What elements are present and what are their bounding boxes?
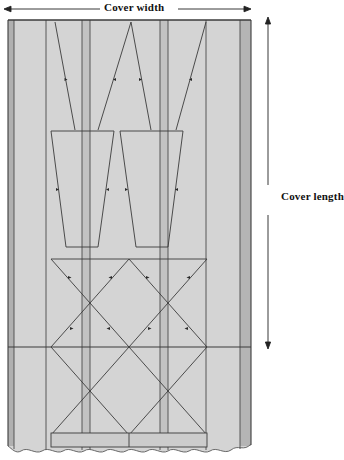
length-arrow-head-top: [265, 17, 270, 24]
cover-length-arrow: [265, 17, 270, 349]
cover-length-label: Cover length: [281, 190, 344, 202]
cover-width-label: Cover width: [104, 1, 164, 13]
left-border-strip: [8, 20, 14, 446]
right-border-strip: [240, 20, 251, 446]
length-arrow-head-bottom: [265, 342, 270, 349]
width-arrow-head-left: [4, 6, 11, 12]
width-arrow-head-right: [244, 6, 251, 12]
cover-fill: [8, 20, 251, 452]
cover-body: [8, 20, 251, 452]
bottom-hem-band: [51, 433, 207, 447]
